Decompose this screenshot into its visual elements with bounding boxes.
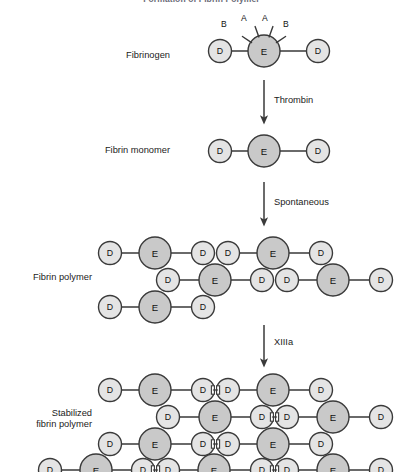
domain-letter-d: D <box>47 465 53 472</box>
domain-letter-e: E <box>212 412 218 423</box>
domain-node-e: E <box>248 135 280 167</box>
domain-node-e: E <box>317 264 349 296</box>
domain-node-e: E <box>80 454 112 472</box>
domain-letter-d: D <box>378 465 384 472</box>
fibrinopeptide-spike-a-2 <box>269 27 273 37</box>
stage-label-line: Fibrin monomer <box>0 145 170 156</box>
factor-xiiia-crosslink <box>270 466 278 472</box>
domain-letter-d: D <box>200 385 206 395</box>
domain-letter-d: D <box>200 439 206 449</box>
domain-node-e: E <box>139 237 171 269</box>
spontaneous-arrow-label: Spontaneous <box>274 197 329 207</box>
domain-letter-d: D <box>107 302 113 312</box>
factor-xiiia-crosslink <box>270 413 278 421</box>
fibrinopeptide-label-b-3: B <box>283 19 289 29</box>
domain-node-d: D <box>99 379 122 402</box>
fibrinopeptide-spike-a-1 <box>255 27 259 37</box>
domain-node-e: E <box>257 374 289 406</box>
domain-node-e: E <box>199 264 231 296</box>
domain-node-e: E <box>139 291 171 323</box>
domain-letter-d: D <box>225 385 231 395</box>
domain-node-d: D <box>192 242 215 265</box>
domain-node-d: D <box>251 269 274 292</box>
stage-label-fibrin-polymer: Fibrin polymer <box>0 272 92 283</box>
domain-letter-d: D <box>140 465 146 472</box>
domain-node-e: E <box>198 454 230 472</box>
domain-node-e: E <box>248 35 280 67</box>
domain-node-e: E <box>317 401 349 433</box>
domain-letter-e: E <box>152 385 158 396</box>
domain-letter-d: D <box>318 248 324 258</box>
domain-letter-e: E <box>270 248 276 259</box>
stage-label-line: Fibrinogen <box>0 50 170 61</box>
domain-node-d: D <box>307 40 330 63</box>
fibrinopeptide-spike-b-0 <box>242 36 251 42</box>
domain-node-e: E <box>199 401 231 433</box>
domain-node-e: E <box>139 374 171 406</box>
fibrinopeptide-label-b-0: B <box>221 19 227 29</box>
domain-node-d: D <box>99 433 122 456</box>
domain-node-d: D <box>209 40 232 63</box>
factor-xiiia-crosslink <box>211 386 219 394</box>
domain-letter-d: D <box>225 439 231 449</box>
fibrinopeptide-label-a-1: A <box>241 13 247 23</box>
stage-label-line: Stabilized <box>0 408 92 419</box>
stage-label-line: fibrin polymer <box>0 419 92 430</box>
domain-node-d: D <box>157 269 180 292</box>
domain-node-d: D <box>157 406 180 429</box>
domain-letter-e: E <box>93 465 99 472</box>
domain-letter-e: E <box>211 465 217 472</box>
domain-letter-d: D <box>378 412 384 422</box>
domain-letter-d: D <box>259 275 265 285</box>
domain-node-e: E <box>257 237 289 269</box>
domain-node-d: D <box>39 459 62 472</box>
domain-node-d: D <box>99 242 122 265</box>
factor-xiiia-crosslink <box>151 466 159 472</box>
domain-node-d: D <box>276 269 299 292</box>
fibrinopeptide-spike-b-3 <box>276 36 285 42</box>
domain-nodes-group: DEDDEDDEDDEDDEDDEDDEDDEDDEDDEDDEDDEDDEDD… <box>39 35 393 472</box>
domain-letter-d: D <box>259 412 265 422</box>
fibrinopeptide-label-a-2: A <box>262 13 268 23</box>
domain-node-e: E <box>257 428 289 460</box>
domain-node-d: D <box>370 269 393 292</box>
domain-letter-e: E <box>152 302 158 313</box>
domain-node-d: D <box>99 296 122 319</box>
stage-label-fibrinogen: Fibrinogen <box>0 50 170 61</box>
domain-node-d: D <box>370 406 393 429</box>
domain-letter-e: E <box>152 248 158 259</box>
domain-letter-e: E <box>330 465 336 472</box>
domain-letter-d: D <box>217 146 223 156</box>
domain-letter-d: D <box>315 146 321 156</box>
domain-letter-e: E <box>270 439 276 450</box>
diagram-canvas: DEDDEDDEDDEDDEDDEDDEDDEDDEDDEDDEDDEDDEDD… <box>0 0 403 472</box>
domain-node-e: E <box>317 454 349 472</box>
domain-letter-d: D <box>284 412 290 422</box>
domain-letter-d: D <box>107 439 113 449</box>
stage-label-line: Fibrin polymer <box>0 272 92 283</box>
stage-label-fibrin-monomer: Fibrin monomer <box>0 145 170 156</box>
domain-letter-e: E <box>261 146 267 157</box>
domain-letter-d: D <box>200 248 206 258</box>
domain-letter-e: E <box>152 439 158 450</box>
thrombin-arrow-label: Thrombin <box>274 95 313 105</box>
domain-letter-d: D <box>284 465 290 472</box>
domain-letter-e: E <box>330 412 336 423</box>
domain-node-d: D <box>310 379 333 402</box>
domain-letter-d: D <box>318 385 324 395</box>
factor-xiiia-crosslink <box>211 440 219 448</box>
domain-letter-d: D <box>200 302 206 312</box>
xiiia-arrow-label: XIIIa <box>274 337 293 347</box>
domain-letter-d: D <box>107 248 113 258</box>
domain-letter-d: D <box>378 275 384 285</box>
domain-letter-d: D <box>225 248 231 258</box>
domain-letter-d: D <box>107 385 113 395</box>
domain-letter-e: E <box>270 385 276 396</box>
domain-node-d: D <box>192 296 215 319</box>
stage-label-stabilized-fibrin-polymer: Stabilizedfibrin polymer <box>0 408 92 430</box>
domain-letter-d: D <box>217 46 223 56</box>
domain-letter-e: E <box>330 275 336 286</box>
domain-node-d: D <box>310 433 333 456</box>
domain-node-d: D <box>217 242 240 265</box>
domain-letter-d: D <box>165 412 171 422</box>
